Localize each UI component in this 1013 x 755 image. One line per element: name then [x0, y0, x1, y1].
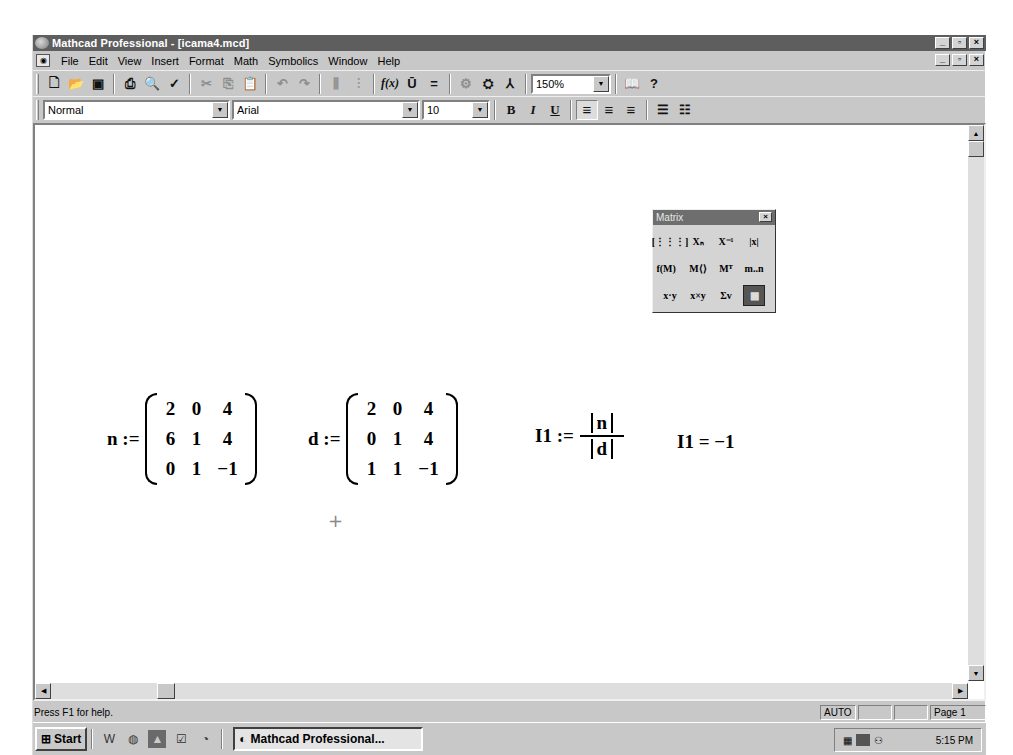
desktop-quicklaunch-icon[interactable]: ▲	[148, 730, 166, 748]
align-right-button[interactable]: ≡	[620, 100, 642, 120]
horizontal-scroll-thumb[interactable]	[157, 683, 175, 699]
scroll-left-button[interactable]: ◀	[35, 683, 51, 699]
menu-format[interactable]: Format	[184, 55, 229, 67]
matrix-cell[interactable]: 1	[358, 458, 384, 480]
menu-edit[interactable]: Edit	[84, 55, 113, 67]
denominator-det-d[interactable]: d	[591, 439, 614, 459]
open-icon[interactable]: 📂	[65, 74, 87, 94]
checklist-quicklaunch-icon[interactable]: ☑	[172, 730, 190, 748]
insert-component-icon[interactable]: ⚙	[455, 74, 477, 94]
copy-icon[interactable]: ⎘	[217, 74, 239, 94]
mathcad-app-icon[interactable]	[35, 37, 49, 49]
channel-quicklaunch-icon[interactable]: ◔	[196, 730, 214, 748]
doc-restore-button[interactable]: ▫	[952, 54, 967, 66]
bold-button[interactable]: B	[500, 100, 522, 120]
save-icon[interactable]: ▣	[87, 74, 109, 94]
cross-product-icon[interactable]: x×y	[684, 282, 712, 309]
menu-file[interactable]: File	[56, 55, 84, 67]
matrix-d[interactable]: 2 0 4 0 1 4 1 1 −1	[346, 393, 458, 485]
paste-icon[interactable]: 📋	[239, 74, 261, 94]
picture-icon[interactable]: ▩	[743, 285, 765, 306]
resource-center-icon[interactable]: 📖	[621, 74, 643, 94]
close-button[interactable]: ×	[969, 37, 984, 49]
matrix-cell[interactable]: 1	[183, 458, 209, 480]
insert-unit-icon[interactable]: Ū	[401, 74, 423, 94]
matrix-cell[interactable]: −1	[410, 458, 446, 480]
numbering-button[interactable]: ☷	[674, 100, 696, 120]
toolbar-grip[interactable]	[36, 74, 39, 94]
matrix-cell[interactable]: 1	[384, 428, 410, 450]
italic-button[interactable]: I	[522, 100, 544, 120]
matrix-cell[interactable]: 0	[183, 398, 209, 420]
monitor-tray-icon[interactable]	[856, 734, 870, 746]
transpose-icon[interactable]: Mᵀ	[712, 255, 740, 282]
insert-hyperlink-icon[interactable]: ⛭	[477, 74, 499, 94]
font-size-select[interactable]: 10 ▼	[422, 100, 490, 120]
worksheet[interactable]: n := 2 0 4 6 1 4 0 1 −1 d :=	[33, 123, 986, 701]
new-icon[interactable]: 🗋	[43, 74, 65, 94]
chevron-down-icon[interactable]: ▼	[593, 76, 609, 92]
menu-math[interactable]: Math	[229, 55, 263, 67]
maximize-button[interactable]: ▫	[952, 37, 967, 49]
matrix-cell[interactable]: 4	[209, 398, 245, 420]
print-preview-icon[interactable]: 🔍	[141, 74, 163, 94]
zoom-select[interactable]: 150% ▼	[531, 74, 611, 94]
matrix-cell[interactable]: 4	[410, 428, 446, 450]
print-icon[interactable]: ⎙	[119, 74, 141, 94]
menu-view[interactable]: View	[113, 55, 147, 67]
dot-product-icon[interactable]: x·y	[656, 282, 684, 309]
doc-close-button[interactable]: ×	[969, 54, 984, 66]
menu-help[interactable]: Help	[372, 55, 405, 67]
expression-i1-definition[interactable]: I1 := n d	[535, 411, 624, 461]
matrix-cell[interactable]: 1	[183, 428, 209, 450]
start-button[interactable]: ⊞ Start	[35, 727, 87, 751]
matrix-cell[interactable]: 2	[358, 398, 384, 420]
doc-minimize-button[interactable]: _	[935, 54, 950, 66]
align-across-icon[interactable]: ⫼	[325, 74, 347, 94]
title-bar[interactable]: Mathcad Professional - [icama4.mcd] _ ▫ …	[33, 35, 986, 51]
matrix-cell[interactable]: 0	[384, 398, 410, 420]
expression-i1-evaluation[interactable]: I1 = −1	[677, 431, 735, 453]
matrix-cell[interactable]: −1	[209, 458, 245, 480]
browser-quicklaunch-icon[interactable]: ◍	[124, 730, 142, 748]
insert-matrix-icon[interactable]: [⋮⋮⋮]	[656, 228, 684, 255]
insert-function-icon[interactable]: f(x)	[379, 74, 401, 94]
align-center-button[interactable]: ≡	[598, 100, 620, 120]
calculate-icon[interactable]: =	[423, 74, 445, 94]
minimize-button[interactable]: _	[935, 37, 950, 49]
word-quicklaunch-icon[interactable]: W	[100, 730, 118, 748]
matrix-cell[interactable]: 4	[410, 398, 446, 420]
palette-title-bar[interactable]: Matrix ×	[653, 210, 775, 225]
spell-check-icon[interactable]: ✓	[163, 74, 185, 94]
toolbar-grip[interactable]	[36, 100, 39, 120]
align-left-button[interactable]: ≡	[576, 100, 598, 120]
subscript-icon[interactable]: Xₙ	[684, 228, 712, 255]
scheduler-tray-icon[interactable]: ⚇	[874, 735, 883, 746]
menu-symbolics[interactable]: Symbolics	[263, 55, 323, 67]
redo-icon[interactable]: ↷	[293, 74, 315, 94]
vector-sum-icon[interactable]: Σv	[712, 282, 740, 309]
matrix-n[interactable]: 2 0 4 6 1 4 0 1 −1	[145, 393, 257, 485]
vertical-scrollbar[interactable]: ▲ ▼	[968, 125, 984, 681]
matrix-cell[interactable]: 0	[157, 458, 183, 480]
matrix-cell[interactable]: 1	[384, 458, 410, 480]
expression-d[interactable]: d := 2 0 4 0 1 4 1 1 −1	[308, 393, 458, 485]
matrix-cell[interactable]: 0	[358, 428, 384, 450]
menu-insert[interactable]: Insert	[146, 55, 184, 67]
taskbar-mathcad-button[interactable]: ◐ Mathcad Professional...	[233, 727, 423, 751]
chevron-down-icon[interactable]: ▼	[212, 102, 228, 118]
cut-icon[interactable]: ✂	[195, 74, 217, 94]
chevron-down-icon[interactable]: ▼	[402, 102, 418, 118]
help-icon[interactable]: ?	[643, 74, 665, 94]
clock[interactable]: 5:15 PM	[936, 735, 973, 746]
underline-button[interactable]: U	[544, 100, 566, 120]
matrix-cell[interactable]: 6	[157, 428, 183, 450]
matrix-cell[interactable]: 4	[209, 428, 245, 450]
scroll-down-button[interactable]: ▼	[968, 665, 984, 681]
resource-tree-icon[interactable]: ⅄	[499, 74, 521, 94]
menu-window[interactable]: Window	[323, 55, 372, 67]
horizontal-scrollbar[interactable]: ◀ ▶	[35, 683, 968, 699]
matrix-cell[interactable]: 2	[157, 398, 183, 420]
vertical-scroll-thumb[interactable]	[968, 141, 984, 157]
range-variable-icon[interactable]: m..n	[740, 255, 768, 282]
